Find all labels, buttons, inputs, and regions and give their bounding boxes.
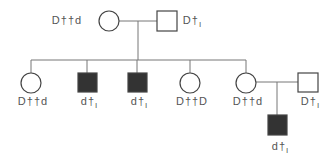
female-unaffected-icon bbox=[236, 73, 256, 93]
genotype-label-daughter-3: D††d bbox=[233, 95, 263, 107]
female-unaffected-icon bbox=[99, 11, 119, 31]
male-unaffected-icon bbox=[157, 11, 177, 31]
genotype-label-grandson: d†I bbox=[272, 140, 288, 155]
male-affected-icon bbox=[78, 73, 97, 92]
genotype-label-daughter-1: D††d bbox=[18, 95, 48, 107]
genotype-label-son-2: d†I bbox=[131, 95, 147, 110]
genotype-label-father: D†I bbox=[183, 14, 201, 29]
female-unaffected-icon bbox=[21, 73, 41, 93]
genotype-label-mother: D††d bbox=[52, 14, 82, 26]
genotype-label-spouse: D†I bbox=[301, 95, 319, 110]
pedigree-chart: D††d D†I D††d d†I d†I D††D D††d D†I d†I bbox=[0, 0, 335, 165]
male-unaffected-icon bbox=[298, 73, 318, 92]
genotype-label-son-1: d†I bbox=[81, 95, 97, 110]
male-affected-icon bbox=[128, 73, 147, 92]
female-unaffected-icon bbox=[180, 73, 200, 93]
male-affected-icon bbox=[268, 115, 287, 135]
genotype-label-daughter-2: D††D bbox=[176, 95, 208, 107]
